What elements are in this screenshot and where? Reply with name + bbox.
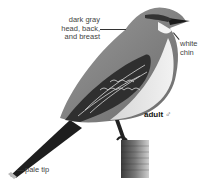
head-back-breast-label: dark gray head, back, and breast <box>60 16 100 42</box>
bird-figure: dark gray head, back, and breast white c… <box>0 0 201 180</box>
pale-tip-label: pale tip <box>25 166 49 175</box>
label-line: and breast <box>60 33 100 42</box>
age-label: adult <box>144 110 163 119</box>
tail-leader-line <box>16 170 24 171</box>
white-chin-label: white chin <box>180 40 198 57</box>
male-symbol-icon: ♂ <box>165 110 171 119</box>
bird-illustration <box>0 0 201 180</box>
label-line: chin <box>180 49 198 58</box>
head-leader-line <box>100 29 126 30</box>
adult-male-label: adult ♂ <box>144 111 171 120</box>
perch-post <box>121 140 149 178</box>
